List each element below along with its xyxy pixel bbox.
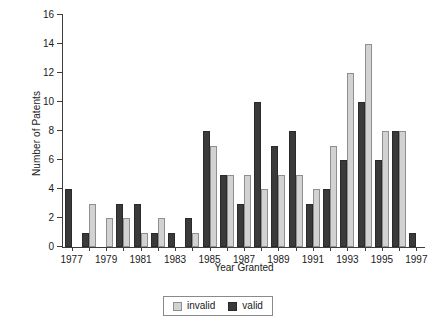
y-tick-label: 10: [43, 97, 54, 107]
y-tick-mark: [57, 188, 63, 189]
x-tick-mark: [261, 247, 262, 251]
bar-valid-1987: [237, 204, 244, 248]
bar-invalid-1978: [89, 204, 96, 248]
bar-valid-1981: [134, 204, 141, 248]
chart-legend: invalid valid: [163, 296, 273, 316]
x-tick-mark: [227, 247, 228, 251]
bar-valid-1988: [254, 102, 261, 247]
bar-valid-1997: [409, 233, 416, 248]
y-axis-line: [62, 15, 63, 248]
legend-label-valid: valid: [242, 301, 263, 311]
legend-label-invalid: invalid: [187, 301, 215, 311]
bar-valid-1985: [203, 131, 210, 247]
x-axis-title: Year Granted: [63, 262, 425, 273]
bar-valid-1993: [340, 160, 347, 247]
bar-valid-1995: [375, 160, 382, 247]
bar-invalid-1990: [296, 175, 303, 248]
x-tick-mark: [192, 247, 193, 251]
bar-valid-1982: [151, 233, 158, 248]
x-tick-mark: [244, 247, 245, 251]
legend-swatch-invalid-icon: [173, 302, 182, 311]
bar-valid-1978: [82, 233, 89, 248]
y-tick-label: 16: [43, 10, 54, 20]
x-tick-mark: [72, 247, 73, 251]
bar-invalid-1993: [347, 73, 354, 247]
bar-invalid-1994: [365, 44, 372, 247]
x-tick-mark: [278, 247, 279, 251]
bar-invalid-1995: [382, 131, 389, 247]
y-tick-label: 8: [48, 126, 54, 136]
x-tick-mark: [365, 247, 366, 251]
bar-invalid-1985: [210, 146, 217, 248]
y-tick-label: 4: [48, 184, 54, 194]
legend-item-invalid: invalid: [173, 301, 215, 311]
x-tick-mark: [347, 247, 348, 251]
bar-invalid-1987: [244, 175, 251, 248]
x-tick-mark: [175, 247, 176, 251]
y-tick-label: 6: [48, 155, 54, 165]
y-tick-mark: [57, 130, 63, 131]
y-axis-title: Number of Patents: [31, 54, 42, 214]
x-tick-mark: [416, 247, 417, 251]
bar-invalid-1980: [123, 218, 130, 247]
bar-valid-1992: [323, 189, 330, 247]
y-tick-mark: [57, 217, 63, 218]
y-tick-mark: [57, 159, 63, 160]
bar-invalid-1989: [278, 175, 285, 248]
bar-valid-1991: [306, 204, 313, 248]
y-tick-label: 0: [48, 242, 54, 252]
y-tick-mark: [57, 43, 63, 44]
x-tick-mark: [106, 247, 107, 251]
y-tick-mark: [57, 14, 63, 15]
bar-valid-1977: [65, 189, 72, 247]
x-tick-mark: [399, 247, 400, 251]
x-tick-mark: [296, 247, 297, 251]
bar-valid-1983: [168, 233, 175, 248]
y-tick-mark: [57, 101, 63, 102]
x-tick-mark: [210, 247, 211, 251]
y-tick-mark: [57, 72, 63, 73]
legend-item-valid: valid: [228, 301, 263, 311]
bar-invalid-1991: [313, 189, 320, 247]
patent-bar-chart: Number of Patents 0246810121416 19771979…: [0, 0, 437, 331]
y-tick-mark: [57, 246, 63, 247]
x-tick-mark: [330, 247, 331, 251]
x-tick-mark: [141, 247, 142, 251]
bar-valid-1996: [392, 131, 399, 247]
plot-area: 0246810121416 19771979198119831985198719…: [63, 15, 425, 247]
bar-invalid-1992: [330, 146, 337, 248]
bar-invalid-1982: [158, 218, 165, 247]
bar-invalid-1996: [399, 131, 406, 247]
x-tick-mark: [158, 247, 159, 251]
bar-invalid-1986: [227, 175, 234, 248]
bar-invalid-1981: [141, 233, 148, 248]
bar-valid-1980: [116, 204, 123, 248]
y-tick-label: 14: [43, 39, 54, 49]
x-tick-mark: [313, 247, 314, 251]
x-tick-mark: [123, 247, 124, 251]
y-tick-label: 2: [48, 213, 54, 223]
bar-valid-1986: [220, 175, 227, 248]
bar-valid-1994: [358, 102, 365, 247]
y-tick-label: 12: [43, 68, 54, 78]
bar-invalid-1979: [106, 218, 113, 247]
x-tick-mark: [89, 247, 90, 251]
bar-valid-1990: [289, 131, 296, 247]
bar-valid-1984: [185, 218, 192, 247]
legend-swatch-valid-icon: [228, 302, 237, 311]
x-tick-mark: [382, 247, 383, 251]
bar-invalid-1984: [192, 233, 199, 248]
bar-invalid-1988: [261, 189, 268, 247]
bar-valid-1989: [271, 146, 278, 248]
